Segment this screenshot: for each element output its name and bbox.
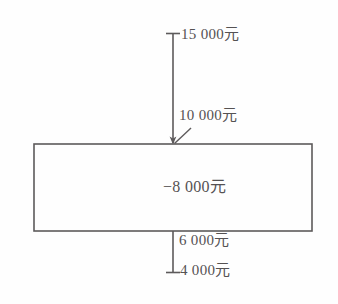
label-upper-arrow-value: 10 000元 — [179, 108, 237, 123]
diagram-strokes — [0, 0, 338, 304]
label-lower-value: 6 000元 — [179, 233, 230, 248]
bracket-scale-diagram: 15 000元 10 000元 −8 000元 6 000元 4 000元 — [0, 0, 338, 304]
label-bottom-value: 4 000元 — [180, 263, 231, 278]
label-top-value: 15 000元 — [181, 27, 239, 42]
label-box-value: −8 000元 — [163, 179, 226, 195]
callout-leader-line — [175, 128, 192, 144]
